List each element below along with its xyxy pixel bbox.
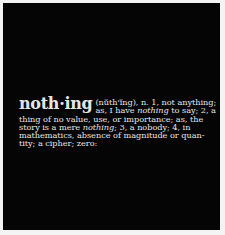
headword: noth·ing [19,97,92,111]
dictionary-definition: noth·ing (nŭth'ĭng), n. 1, not anything;… [19,99,214,148]
black-canvas: noth·ing (nŭth'ĭng), n. 1, not anything;… [3,3,220,230]
definition-first-block: noth·ing (nŭth'ĭng), n. 1, not anything;… [19,97,214,115]
definition-first-lines: (nŭth'ĭng), n. 1, not anything; as, I ha… [95,97,216,115]
definition-line-6: tity; a cipher; zero: [19,139,214,147]
